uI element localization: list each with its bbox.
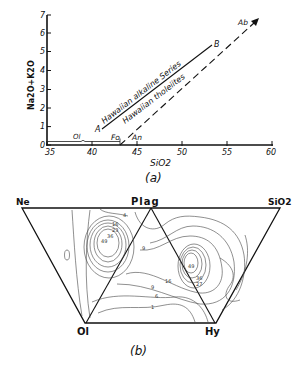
panel-a: 0 1 2 3 4 5 6 7 35 40 45 50 55 60 Na2O+K… xyxy=(27,11,276,185)
contour-label-36: 36 xyxy=(107,233,113,239)
y-tick-1: 1 xyxy=(40,122,45,131)
x-tick-40: 40 xyxy=(87,148,97,157)
y-tick-3: 3 xyxy=(40,85,45,94)
alkaline-series-line xyxy=(102,45,212,129)
vertex-sio2: SiO2 xyxy=(268,197,291,207)
ol-baseline xyxy=(47,140,120,141)
label-ol-a: Ol xyxy=(73,133,81,141)
fo-ab-dashed-line xyxy=(120,23,254,145)
contour-label-16-lower: 16 xyxy=(165,278,171,284)
y-tick-7: 7 xyxy=(40,11,46,20)
plag-ol-join xyxy=(86,208,151,323)
label-a: A xyxy=(94,125,100,134)
label-fo: Fo xyxy=(111,133,120,142)
vertex-hy: Hy xyxy=(205,326,220,337)
y-tick-2: 2 xyxy=(40,104,45,113)
label-ab: Ab xyxy=(237,18,248,27)
panel-b: 4 16 23 36 49 9 49 36 27 16 9 6 1 Ne Pla… xyxy=(16,196,291,358)
contour-label-9-lower: 9 xyxy=(151,284,154,290)
contour-label-4: 4 xyxy=(123,212,126,218)
panel-b-caption: (b) xyxy=(130,344,147,358)
contour-label-49-left: 49 xyxy=(101,238,107,244)
contour-label-49-right: 49 xyxy=(188,263,194,269)
vertex-plag: Plag xyxy=(131,196,160,207)
vertex-ne: Ne xyxy=(16,197,30,207)
label-b: B xyxy=(214,40,220,49)
x-axis-label: SiO2 xyxy=(150,158,171,168)
y-tick-6: 6 xyxy=(40,29,45,38)
x-tick-45: 45 xyxy=(132,148,142,157)
x-tick-50: 50 xyxy=(177,148,187,157)
y-tick-4: 4 xyxy=(40,66,45,75)
y-axis-label: Na2O+K2O xyxy=(27,60,36,110)
vertex-ol: Ol xyxy=(77,326,89,337)
x-tick-60: 60 xyxy=(266,148,276,157)
x-tick-35: 35 xyxy=(45,148,55,157)
contour-label-9-upper: 9 xyxy=(142,245,145,251)
label-alkaline-series: Hawaiian alkaline Series xyxy=(100,59,183,125)
figure: 0 1 2 3 4 5 6 7 35 40 45 50 55 60 Na2O+K… xyxy=(0,0,305,370)
y-tick-5: 5 xyxy=(40,47,45,56)
panel-a-caption: (a) xyxy=(145,171,162,185)
contour-label-6: 6 xyxy=(155,293,158,299)
contour-label-27: 27 xyxy=(196,281,202,287)
label-an: An xyxy=(131,133,142,142)
contour-label-1: 1 xyxy=(151,304,154,310)
x-tick-55: 55 xyxy=(222,148,232,157)
